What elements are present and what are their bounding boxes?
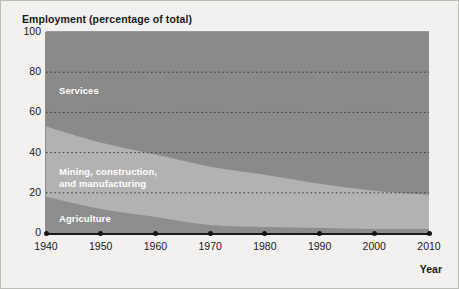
y-tick-label-60: 60 bbox=[5, 105, 41, 117]
series-label-mining: Mining, construction, and manufacturing bbox=[59, 166, 157, 190]
series-label-agriculture: Agriculture bbox=[59, 213, 111, 225]
x-tick-label-1980: 1980 bbox=[253, 240, 276, 252]
x-tick-dot-1990 bbox=[317, 231, 322, 236]
x-tick-label-1970: 1970 bbox=[198, 240, 221, 252]
stacked-area-svg bbox=[46, 32, 429, 233]
x-tick-label-1940: 1940 bbox=[34, 240, 57, 252]
y-tick-label-0: 0 bbox=[5, 226, 41, 238]
x-tick-label-2010: 2010 bbox=[417, 240, 440, 252]
y-tick-label-100: 100 bbox=[5, 25, 41, 37]
x-tick-label-1990: 1990 bbox=[308, 240, 331, 252]
chart-title: Employment (percentage of total) bbox=[22, 13, 192, 25]
chart-figure: Employment (percentage of total) 0204060… bbox=[0, 0, 459, 289]
x-tick-dot-1980 bbox=[262, 231, 267, 236]
x-tick-dot-1960 bbox=[153, 231, 158, 236]
y-tick-label-40: 40 bbox=[5, 146, 41, 158]
series-label-services: Services bbox=[59, 85, 99, 97]
x-tick-dot-2000 bbox=[372, 231, 377, 236]
x-tick-dot-1940 bbox=[44, 231, 49, 236]
x-tick-dot-1970 bbox=[208, 231, 213, 236]
plot-area bbox=[46, 32, 429, 233]
x-axis-title: Year bbox=[420, 263, 442, 275]
x-tick-dot-1950 bbox=[98, 231, 103, 236]
x-tick-label-1950: 1950 bbox=[89, 240, 112, 252]
y-tick-label-80: 80 bbox=[5, 65, 41, 77]
x-tick-label-1960: 1960 bbox=[144, 240, 167, 252]
area-bands-group bbox=[46, 32, 429, 233]
x-tick-label-2000: 2000 bbox=[363, 240, 386, 252]
x-tick-dot-2010 bbox=[427, 231, 432, 236]
y-tick-label-20: 20 bbox=[5, 186, 41, 198]
